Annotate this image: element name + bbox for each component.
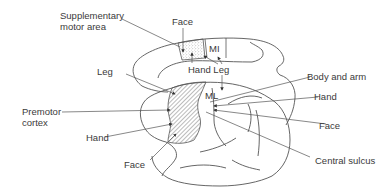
label-central-sulcus: Central sulcus (315, 155, 375, 166)
label-face-right: Face (319, 120, 340, 131)
label-mi-lateral: ML (205, 90, 218, 101)
label-premotor-line2: cortex (22, 117, 61, 128)
label-sma-line2: motor area (60, 21, 124, 32)
label-supplementary-motor-area: Supplementary motor area (60, 10, 124, 32)
label-hand-left: Hand (86, 132, 109, 143)
label-leg: Leg (97, 66, 113, 77)
label-face-top: Face (172, 16, 193, 27)
label-body-and-arm: Body and arm (307, 71, 366, 82)
label-hand-right: Hand (314, 91, 337, 102)
label-mi-top: MI (209, 43, 220, 54)
label-premotor-line1: Premotor (22, 106, 61, 117)
supplementary-motor-area-region (178, 39, 205, 60)
label-hand-leg-top: Hand Leg (188, 64, 229, 75)
premotor-cortex-region (168, 82, 206, 143)
brain-motor-areas-diagram: Supplementary motor area Face MI Hand Le… (0, 0, 392, 189)
label-face-bottom: Face (124, 159, 145, 170)
label-sma-line1: Supplementary (60, 10, 124, 21)
label-premotor-cortex: Premotor cortex (22, 106, 61, 128)
